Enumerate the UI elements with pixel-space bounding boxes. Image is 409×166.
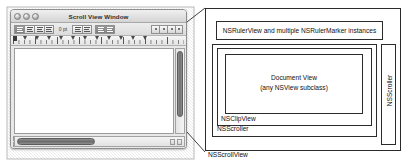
nsrulerview-label: NSRulerView and multiple NSRulerMarker i… [217, 27, 382, 34]
document-view-box: Document View (any NSView subclass) [225, 54, 363, 114]
nsscrollview-label: NSScrollView [208, 151, 248, 158]
document-view-label-line2: (any NSView subclass) [260, 84, 328, 91]
nsrulerview-box: NSRulerView and multiple NSRulerMarker i… [216, 21, 383, 40]
vertical-nsscroller-label: NSScroller [386, 62, 393, 120]
horizontal-nsscroller-label: NSScroller [217, 125, 249, 132]
document-view-label-line1: Document View [271, 74, 317, 81]
nsscrollview-structure-diagram: NSScrollView NSRulerView and multiple NS… [205, 8, 401, 159]
vertical-nsscroller-box: NSScroller [381, 44, 396, 145]
nsclipview-label: NSClipView [221, 115, 256, 122]
document-view-label: Document View (any NSView subclass) [226, 73, 362, 93]
